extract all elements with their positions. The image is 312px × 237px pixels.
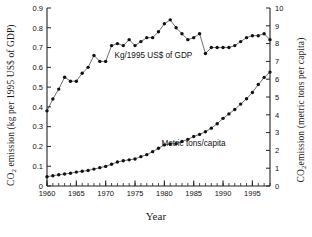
kg-per-gdp-point: [157, 30, 160, 33]
kg-per-gdp-point: [215, 46, 218, 49]
y-right-tick-label: 5: [275, 93, 279, 102]
metric-tons-point: [104, 165, 107, 168]
kg-per-gdp-point: [245, 36, 248, 39]
y-left-tick-label: 0.7: [33, 43, 43, 52]
metric-tons-point: [239, 102, 242, 105]
metric-tons-point: [233, 108, 236, 111]
x-tick-label: 1990: [215, 189, 232, 198]
y-left-tick-label: 0.4: [33, 103, 43, 112]
metric-tons-point: [215, 122, 218, 125]
x-tick-label: 1980: [156, 189, 173, 198]
metric-tons-point: [204, 130, 207, 133]
y-right-tick-label: 1: [275, 164, 279, 173]
metric-tons-point: [145, 153, 148, 156]
kg-per-gdp-point: [227, 46, 230, 49]
y-right-tick-label: 10: [275, 4, 283, 13]
kg-per-gdp-point: [210, 46, 213, 49]
metric-tons-point: [69, 171, 72, 174]
metric-tons-point: [198, 133, 201, 136]
kg-per-gdp-point: [75, 79, 78, 82]
series-annotations: Kg/1995 US$ of GDPMetric tons/capita: [114, 51, 226, 148]
x-tick-label: 1985: [185, 189, 202, 198]
kg-per-gdp-point: [151, 36, 154, 39]
axes-lines: [47, 8, 270, 186]
y-right-tick-label: 2: [275, 146, 279, 155]
kg-per-gdp-point: [86, 66, 89, 69]
y-left-tick-label: 0.5: [33, 83, 43, 92]
metric-tons-point: [92, 167, 95, 170]
y-right-tick-label: 6: [275, 75, 279, 84]
x-tick-label: 1970: [97, 189, 114, 198]
kg-per-gdp-point: [98, 60, 101, 63]
y-right-tick-label: 7: [275, 57, 279, 66]
metric-tons-point: [245, 97, 248, 100]
y-axis-right-title: CO2emission (metric tons per capita): [296, 34, 308, 186]
kg-per-gdp-point: [92, 54, 95, 57]
y-left-tick-label: 0: [39, 182, 43, 191]
kg-per-gdp-point: [174, 26, 177, 29]
metric-tons-point: [51, 174, 54, 177]
metric-tons-point: [133, 157, 136, 160]
y-left-tick-label: 0.9: [33, 4, 43, 13]
y-right-tick-label: 3: [275, 128, 279, 137]
kg-per-gdp-point: [233, 44, 236, 47]
x-tick-label: 1995: [244, 189, 261, 198]
metric-tons-point: [110, 163, 113, 166]
kg-per-gdp-point: [104, 60, 107, 63]
x-tick-label: 1975: [127, 189, 144, 198]
metric-tons-point: [63, 172, 66, 175]
metric-tons-point: [122, 159, 125, 162]
kg-per-gdp-point: [262, 32, 265, 35]
y-right-tick-label: 0: [275, 182, 279, 191]
kg-per-gdp-point: [133, 44, 136, 47]
kg-per-gdp-point: [268, 38, 271, 41]
kg-per-gdp-point: [163, 22, 166, 25]
y-axis-right-ticks: 012345678910: [266, 4, 283, 191]
x-axis-title: Year: [0, 210, 312, 222]
metric-tons-point: [151, 150, 154, 153]
x-axis-ticks: 19601965197019751980198519901995: [39, 181, 270, 199]
kg-per-gdp-point: [51, 97, 54, 100]
y-right-tick-label: 9: [275, 22, 279, 31]
kg-per-gdp-point: [192, 36, 195, 39]
series-metric-tons-per-capita: [45, 70, 271, 178]
kg-per-gdp-point: [145, 36, 148, 39]
kg-per-gdp-point: [139, 40, 142, 43]
metric-tons-point: [116, 160, 119, 163]
metric-tons-point: [98, 166, 101, 169]
x-tick-label: 1965: [68, 189, 85, 198]
chart-figure: CO2 emission (kg per 1995 US$ of GDP) CO…: [0, 0, 312, 237]
kg-per-gdp-point: [257, 34, 260, 37]
kg-per-gdp-point: [239, 40, 242, 43]
annotation-kg-per-gdp: Kg/1995 US$ of GDP: [114, 51, 192, 60]
kg-per-gdp-line: [47, 20, 270, 111]
kg-per-gdp-point: [110, 44, 113, 47]
kg-per-gdp-point: [180, 32, 183, 35]
kg-per-gdp-point: [45, 109, 48, 112]
y-axis-left-title: CO2 emission (kg per 1995 US$ of GDP): [6, 34, 18, 186]
series-kg-per-gdp: [45, 18, 271, 112]
kg-per-gdp-point: [81, 72, 84, 75]
kg-per-gdp-point: [204, 52, 207, 55]
metric-tons-point: [227, 112, 230, 115]
metric-tons-point: [139, 155, 142, 158]
metric-tons-point: [268, 70, 271, 73]
metric-tons-point: [192, 135, 195, 138]
y-left-tick-label: 0.8: [33, 24, 43, 33]
kg-per-gdp-point: [186, 38, 189, 41]
y-right-tick-label: 8: [275, 39, 279, 48]
annotation-metric-tons: Metric tons/capita: [161, 139, 226, 148]
kg-per-gdp-point: [69, 79, 72, 82]
metric-tons-point: [81, 170, 84, 173]
y-left-tick-label: 0.3: [33, 122, 43, 131]
y-left-tick-label: 0.6: [33, 63, 43, 72]
metric-tons-point: [45, 175, 48, 178]
kg-per-gdp-point: [122, 44, 125, 47]
metric-tons-point: [75, 170, 78, 173]
metric-tons-point: [251, 91, 254, 94]
kg-per-gdp-point: [221, 46, 224, 49]
kg-per-gdp-point: [63, 76, 66, 79]
chart-plot-area: 19601965197019751980198519901995 00.10.2…: [0, 0, 312, 200]
metric-tons-point: [57, 173, 60, 176]
metric-tons-point: [86, 169, 89, 172]
